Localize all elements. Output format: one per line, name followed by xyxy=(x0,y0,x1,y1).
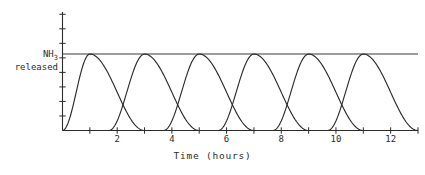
axes-group xyxy=(63,12,419,131)
pulse-curve xyxy=(328,54,418,130)
pulse-curve xyxy=(164,54,254,130)
pulse-curve xyxy=(273,54,363,130)
chart-plot-area xyxy=(0,0,425,175)
y-axis-label-line2: released xyxy=(15,62,58,72)
y-axis-label-line1: NH xyxy=(43,49,54,59)
x-axis-tick-label: 6 xyxy=(224,134,229,144)
x-axis-tick-label: 4 xyxy=(169,134,174,144)
x-axis-tick-label: 2 xyxy=(114,134,119,144)
pulse-curve xyxy=(63,54,145,130)
x-axis-tick-label: 12 xyxy=(385,134,396,144)
chart-screenshot: NH3 released 24681012 Time (hours) xyxy=(0,0,425,175)
x-axis-tick-label: 10 xyxy=(331,134,342,144)
pulse-curves-group xyxy=(63,54,419,130)
y-axis-label: NH3 released xyxy=(6,48,58,74)
x-axis-label: Time (hours) xyxy=(0,150,425,161)
y-axis-label-subscript: 3 xyxy=(54,54,58,62)
pulse-curve xyxy=(109,54,199,130)
pulse-curve xyxy=(218,54,308,130)
x-axis-tick-label: 8 xyxy=(279,134,284,144)
